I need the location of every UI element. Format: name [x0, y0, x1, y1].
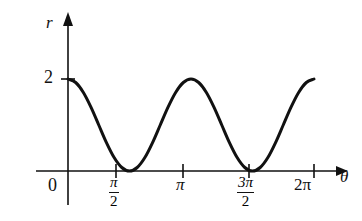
x-tick-label-2pi: 2π — [294, 176, 311, 193]
fraction-denominator: 2 — [108, 193, 120, 210]
polar-function-graph-figure: r θ 2 0 π 2 π 3π 2 2π — [0, 0, 362, 221]
x-tick-label-3pi-over-2: 3π 2 — [236, 175, 255, 210]
y-tick-label-2: 2 — [44, 68, 53, 86]
x-tick-label-pi-over-2: π 2 — [108, 175, 120, 210]
y-axis-label: r — [46, 14, 53, 31]
fraction-denominator: 2 — [236, 193, 255, 210]
origin-label: 0 — [48, 176, 57, 194]
x-axis-label: θ — [340, 168, 348, 185]
fraction-numerator: π — [108, 175, 120, 192]
x-tick-label-pi: π — [176, 176, 185, 193]
fraction-numerator: 3π — [236, 175, 255, 192]
y-axis-arrowhead — [63, 12, 73, 26]
function-curve — [68, 79, 314, 171]
